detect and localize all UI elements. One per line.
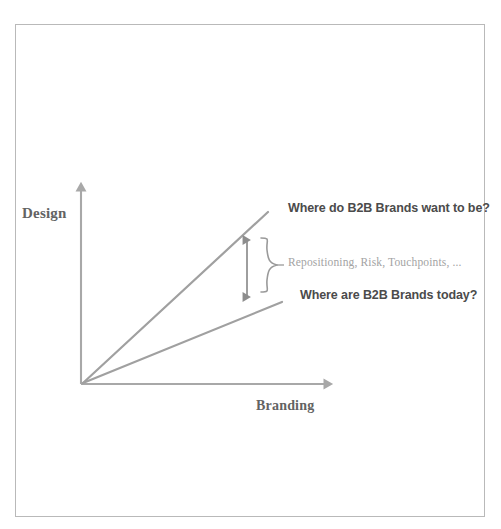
trend-line-today [83, 302, 282, 383]
y-axis-label: Design [22, 205, 67, 222]
callout-aspiration: Where do B2B Brands want to be? [288, 201, 490, 215]
gap-note-label: Repositioning, Risk, Touchpoints, ... [288, 256, 462, 269]
callout-today: Where are B2B Brands today? [300, 288, 477, 302]
diagram-slide: Design Branding Where do B2B Brands want… [0, 0, 501, 529]
gap-brace [261, 238, 277, 292]
trend-line-aspiration [83, 212, 268, 383]
x-axis-label: Branding [256, 398, 314, 414]
